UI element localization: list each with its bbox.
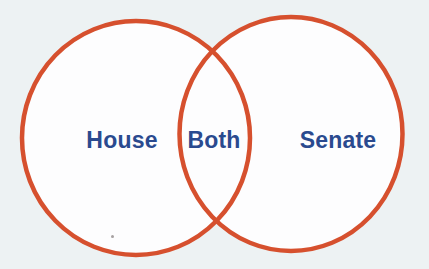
house-label: House (86, 127, 157, 154)
scan-speck-artifact (111, 235, 114, 238)
venn-diagram: House Both Senate (0, 0, 429, 269)
both-label: Both (187, 127, 240, 154)
senate-label: Senate (300, 127, 377, 154)
